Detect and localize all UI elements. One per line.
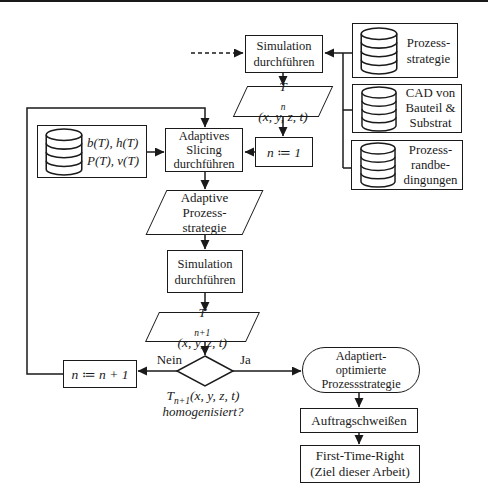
database-cad-bauteil-substrat: CAD von Bauteil & Substrat <box>352 84 462 133</box>
node-label: First-Time-Right <box>316 448 404 464</box>
database-label: Prozess- randbe- dingungen <box>399 143 462 188</box>
node-simulation-loop: Simulation durchführen <box>167 250 243 293</box>
node-adaptiert-optimierte-prozessstrategie: Adaptiert- optimierte Prozessstrategie <box>302 347 420 393</box>
node-tn1-output: Tn+1(x, y, z, t) <box>145 312 260 342</box>
math-base: T <box>167 388 175 403</box>
database-prozessrandbedingungen: Prozess- randbe- dingungen <box>351 140 463 190</box>
node-label: CAD von <box>400 86 461 101</box>
database-prozessparameter: b(T), h(T) P(T), v(T) <box>37 125 147 178</box>
database-label: CAD von Bauteil & Substrat <box>400 86 461 131</box>
database-cylinder-icon <box>43 128 85 176</box>
node-n-increment: n ≔ n + 1 <box>63 360 137 388</box>
math-args: (x, y, z, t) <box>153 335 252 350</box>
node-tn-output: Tn(x, y, z, t) <box>233 86 333 117</box>
node-label: P(T), v(T) <box>87 152 146 170</box>
database-cylinder-icon <box>358 86 400 132</box>
math-base: T <box>241 79 325 94</box>
node-label: strategie <box>400 51 457 67</box>
node-label-block: Adaptive Prozess- strategie <box>157 190 252 235</box>
node-label: b(T), h(T) <box>87 134 146 152</box>
node-label: n ≔ 1 <box>267 145 301 160</box>
math-args: (x, y, z, t) <box>241 109 325 124</box>
decision-caption: Tn+1(x, y, z, t) homogenisiert? <box>143 388 263 419</box>
node-first-time-right: First-Time-Right (Ziel dieser Arbeit) <box>300 445 420 483</box>
flowchart-canvas: Simulation durchführen Prozess- strategi… <box>0 0 488 503</box>
node-label: Adaptive <box>157 190 252 205</box>
node-label: dingungen <box>399 173 462 188</box>
node-label: Prozess- <box>157 205 252 220</box>
node-label: Substrat <box>400 116 461 131</box>
node-label: Prozessstrategie <box>321 377 400 391</box>
node-simulation-top: Simulation durchführen <box>245 35 323 73</box>
database-label: b(T), h(T) P(T), v(T) <box>85 134 146 170</box>
node-adaptive-prozessstrategie: Adaptive Prozess- strategie <box>146 190 264 235</box>
decision-diamond <box>177 356 233 386</box>
node-label: Simulation <box>178 256 233 272</box>
node-label: Auftragschweißen <box>311 413 406 428</box>
node-adaptives-slicing: Adaptives Slicing durchführen <box>165 128 243 172</box>
database-label: Prozess- strategie <box>400 35 457 67</box>
caption-line: homogenisiert? <box>163 404 244 419</box>
node-auftragschweissen: Auftragschweißen <box>300 408 418 433</box>
node-n-init: n ≔ 1 <box>255 137 313 167</box>
node-label: strategie <box>157 220 252 235</box>
node-label: durchführen <box>173 157 234 171</box>
math-args: (x, y, z, t) <box>190 388 240 403</box>
database-cylinder-icon <box>358 27 400 75</box>
decision-no-label: Nein <box>146 352 182 367</box>
math-base: T <box>153 305 252 320</box>
node-label: Slicing <box>186 143 221 157</box>
math-expression: Tn+1(x, y, z, t) <box>167 388 240 403</box>
node-label: Simulation <box>257 38 312 54</box>
math-expression: Tn+1(x, y, z, t) <box>153 305 252 350</box>
node-label: Adaptives <box>179 129 230 143</box>
node-label: Bauteil & <box>400 101 461 116</box>
math-expression: Tn(x, y, z, t) <box>241 79 325 124</box>
node-label: durchführen <box>174 272 235 288</box>
node-label: n ≔ n + 1 <box>72 367 129 382</box>
database-cylinder-icon <box>357 142 399 188</box>
database-prozessstrategie: Prozess- strategie <box>352 23 458 78</box>
node-label: randbe- <box>399 158 462 173</box>
node-label: (Ziel dieser Arbeit) <box>310 464 410 480</box>
node-label: durchführen <box>253 54 314 70</box>
node-label: optimierte <box>336 363 387 377</box>
node-label: Prozess- <box>399 143 462 158</box>
decision-yes-label: Ja <box>240 352 266 367</box>
node-label: Prozess- <box>400 35 457 51</box>
node-label: Adaptiert- <box>336 349 387 363</box>
